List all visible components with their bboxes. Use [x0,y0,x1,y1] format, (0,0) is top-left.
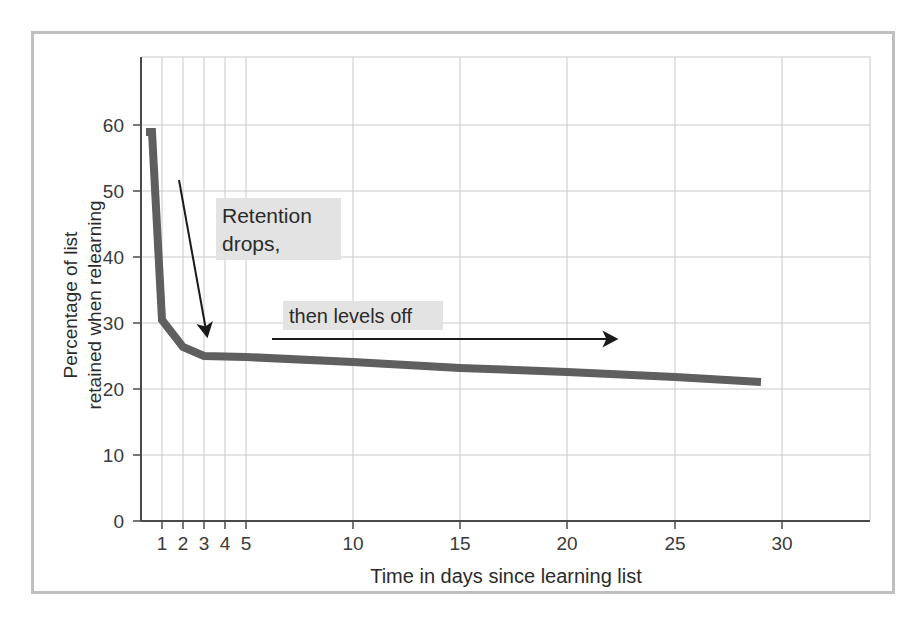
x-tick-label: 15 [449,533,470,554]
x-tick-label: 4 [220,533,231,554]
figure-root: 0 10 20 30 40 50 60 1 2 3 4 5 10 15 20 2… [0,0,921,623]
y-axis-tick-labels: 0 10 20 30 40 50 60 [103,115,124,532]
x-tick-label: 5 [241,533,252,554]
x-tick-label: 30 [771,533,792,554]
y-tick-label: 40 [103,247,124,268]
caption-fragment [40,610,640,622]
x-tick-label: 1 [157,533,168,554]
x-axis-ticks [162,521,782,529]
y-tick-label: 60 [103,115,124,136]
y-axis-title-line2: retained when relearning [84,200,105,409]
y-tick-label: 50 [103,181,124,202]
x-tick-label: 2 [178,533,189,554]
y-axis-title-line1: Percentage of list [60,231,81,379]
then-levels-off-label: then levels off [289,305,412,327]
retention-drops-label-line2: drops, [222,232,280,255]
x-tick-label: 10 [342,533,363,554]
y-tick-label: 30 [103,313,124,334]
x-tick-label: 25 [664,533,685,554]
y-tick-label: 10 [103,445,124,466]
forgetting-curve-chart: 0 10 20 30 40 50 60 1 2 3 4 5 10 15 20 2… [0,0,921,623]
y-axis-ticks [133,125,141,521]
y-tick-label: 20 [103,379,124,400]
x-axis-title: Time in days since learning list [370,565,642,587]
retention-drops-label-line1: Retention [222,204,312,227]
y-tick-label: 0 [113,511,124,532]
x-tick-label: 20 [556,533,577,554]
x-axis-tick-labels: 1 2 3 4 5 10 15 20 25 30 [157,533,793,554]
plot-area-background [141,57,870,521]
x-tick-label: 3 [199,533,210,554]
